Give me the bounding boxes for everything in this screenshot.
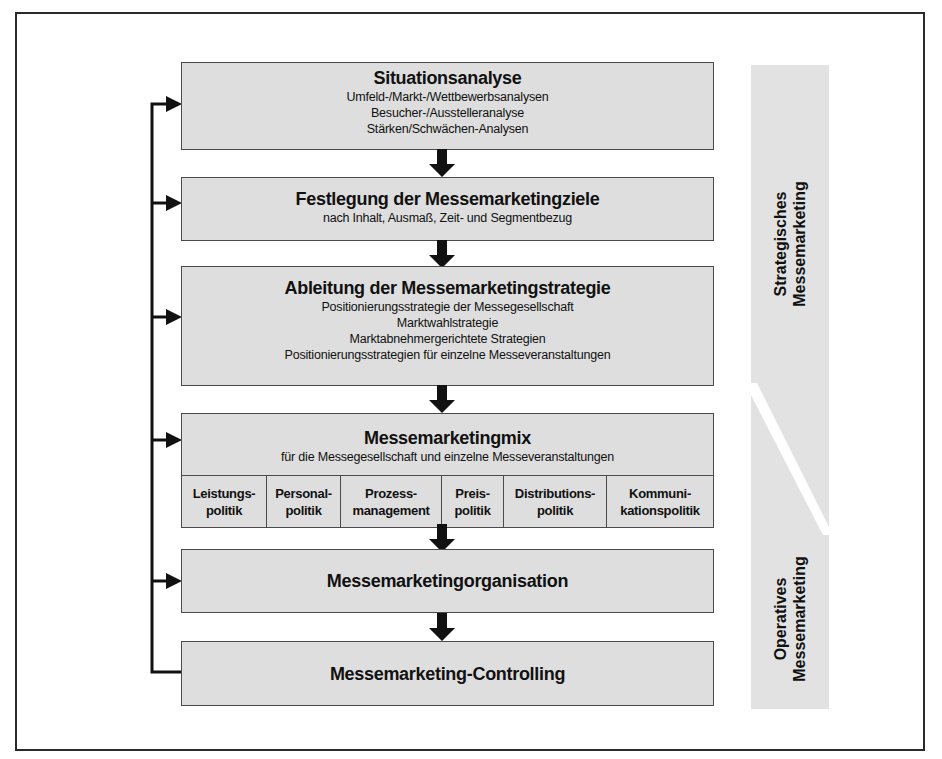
step-title: Festlegung der Messemarketingziele <box>182 188 713 210</box>
arrow-down-icon <box>428 385 456 413</box>
step-title: Situationsanalyse <box>182 67 713 89</box>
step-detail: Positionierungsstrategie der Messegesell… <box>182 299 713 315</box>
step-title: Messemarketing-Controlling <box>330 663 565 685</box>
step-messemarketing-controlling: Messemarketing-Controlling <box>181 641 714 706</box>
strategic-marketing-label: Strategisches Messemarketing <box>771 144 809 344</box>
mix-leistungspolitik: Leistungs- politik <box>182 476 267 527</box>
step-detail: Stärken/Schwächen-Analysen <box>182 121 713 137</box>
step-messemarketingziele: Festlegung der Messemarketingziele nach … <box>181 177 714 241</box>
arrow-down-icon <box>428 524 456 552</box>
mix-distributionspolitik: Distributions- politik <box>504 476 607 527</box>
step-detail: für die Messegesellschaft und einzelne M… <box>182 449 713 465</box>
step-title: Messemarketingmix <box>182 427 713 449</box>
step-detail: nach Inhalt, Ausmaß, Zeit- und Segmentbe… <box>182 210 713 226</box>
arrow-right-icon <box>166 573 182 589</box>
mix-kommunikationspolitik: Kommuni- kationspolitik <box>607 476 713 527</box>
arrow-right-icon <box>166 96 182 112</box>
arrow-down-icon <box>428 613 456 641</box>
step-title: Messemarketingorganisation <box>327 570 568 592</box>
mix-preispolitik: Preis- politik <box>442 476 504 527</box>
mix-prozessmanagement: Prozess- management <box>341 476 442 527</box>
arrow-right-icon <box>166 309 182 325</box>
marketing-mix-row: Leistungs- politik Personal- politik Pro… <box>182 475 713 527</box>
step-detail: Marktabnehmergerichtete Strategien <box>182 331 713 347</box>
step-detail: Marktwahlstrategie <box>182 315 713 331</box>
step-messemarketingmix: Messemarketingmix für die Messegesellsch… <box>181 413 714 528</box>
step-detail: Besucher-/Ausstelleranalyse <box>182 105 713 121</box>
arrow-right-icon <box>166 432 182 448</box>
step-detail: Umfeld-/Markt-/Wettbewerbsanalysen <box>182 89 713 105</box>
arrow-down-icon <box>428 149 456 177</box>
step-messemarketingorganisation: Messemarketingorganisation <box>181 549 714 613</box>
step-title: Ableitung der Messemarketingstrategie <box>182 277 713 299</box>
step-detail: Positionierungsstrategien für einzelne M… <box>182 347 713 363</box>
arrow-right-icon <box>166 195 182 211</box>
arrow-down-icon <box>428 240 456 268</box>
mix-personalpolitik: Personal- politik <box>267 476 341 527</box>
step-messemarketingstrategie: Ableitung der Messemarketingstrategie Po… <box>181 266 714 386</box>
step-situationsanalyse: Situationsanalyse Umfeld-/Markt-/Wettbew… <box>181 62 714 150</box>
operative-marketing-label: Operatives Messemarketing <box>771 519 809 719</box>
